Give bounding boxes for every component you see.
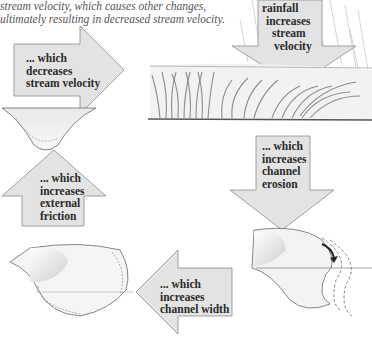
rainfall-label: rainfall increases stream velocity <box>262 2 312 52</box>
decrease-velocity-label: ... which decreases stream velocity <box>26 52 100 90</box>
eroding-channel-section <box>252 228 372 316</box>
external-friction-label: ... which increases external friction <box>40 172 85 222</box>
channel-erosion-label: ... which increases channel erosion <box>262 140 307 190</box>
vegetated-stream-bed <box>148 64 372 120</box>
widened-channel-section <box>10 244 134 316</box>
narrow-channel-section <box>2 108 96 150</box>
channel-width-label: ... which increases channel width <box>160 278 229 316</box>
